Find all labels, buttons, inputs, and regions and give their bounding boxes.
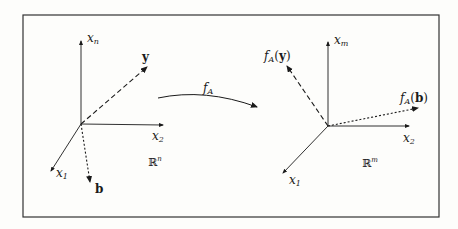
label-rm: ℝm (362, 156, 378, 170)
mapping-fa: fA (158, 81, 257, 107)
right-axis-x1 (283, 126, 328, 173)
label-b: b (95, 182, 103, 196)
label-left-x2: x2 (152, 129, 164, 144)
label-left-x1: x1 (56, 166, 68, 181)
label-fa-b: fA(b) (399, 91, 428, 106)
left-axis-x2 (81, 124, 163, 125)
label-fa: fA (202, 81, 213, 96)
vector-y (81, 67, 147, 124)
label-xn: xn (87, 31, 99, 46)
vector-fa-b (328, 108, 418, 126)
label-right-x1: x1 (289, 173, 301, 188)
label-xm: xm (334, 33, 349, 48)
label-right-x2: x2 (403, 131, 415, 146)
label-rn: ℝn (148, 155, 162, 169)
mapping-arrow (158, 95, 257, 107)
label-y: y (141, 50, 150, 64)
left-coordinate-system: xn y x2 x1 b ℝn (51, 31, 164, 196)
linear-map-diagram: xn y x2 x1 b ℝn fA fA(y) xm fA(b) x2 x1 … (0, 0, 458, 229)
left-axis-x1 (51, 124, 81, 171)
right-coordinate-system: fA(y) xm fA(b) x2 x1 ℝm (263, 33, 428, 188)
vector-fa-y (287, 66, 328, 126)
vector-b (81, 124, 90, 182)
label-fa-y: fA(y) (263, 49, 291, 64)
